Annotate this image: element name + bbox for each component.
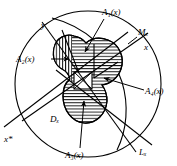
- label-Dx-text: Dₓ: [49, 114, 59, 124]
- leader-Mx: [128, 37, 137, 44]
- label-A1: A₁(x): [101, 7, 121, 17]
- label-y-text: y: [40, 20, 45, 30]
- label-xstar: x*: [3, 134, 13, 144]
- label-A3: A₃(x): [64, 150, 84, 160]
- label-Mx: Mₓ: [137, 27, 148, 37]
- label-y: y: [40, 20, 45, 30]
- label-A4-text: A₄(x): [144, 86, 164, 96]
- label-xstar-text: x*: [3, 134, 13, 144]
- label-A2-text: A₂(x): [15, 54, 35, 64]
- diagram-canvas: A₁(x) Mₓ x y A₂(x) A₄(x) Dₓ A₃(x) Lₓ x*: [0, 0, 177, 166]
- label-A2: A₂(x): [15, 54, 35, 64]
- label-Lx: Lₓ: [138, 147, 147, 157]
- label-Dx: Dₓ: [49, 114, 59, 124]
- label-A3-text: A₃(x): [64, 150, 84, 160]
- label-Lx-text: Lₓ: [138, 147, 147, 157]
- figure-container: A₁(x) Mₓ x y A₂(x) A₄(x) Dₓ A₃(x) Lₓ x*: [0, 0, 177, 166]
- label-x-text: x: [143, 42, 148, 52]
- label-A4: A₄(x): [144, 86, 164, 96]
- label-x: x: [143, 42, 148, 52]
- label-Mx-text: Mₓ: [137, 27, 148, 37]
- label-A1-text: A₁(x): [101, 7, 121, 17]
